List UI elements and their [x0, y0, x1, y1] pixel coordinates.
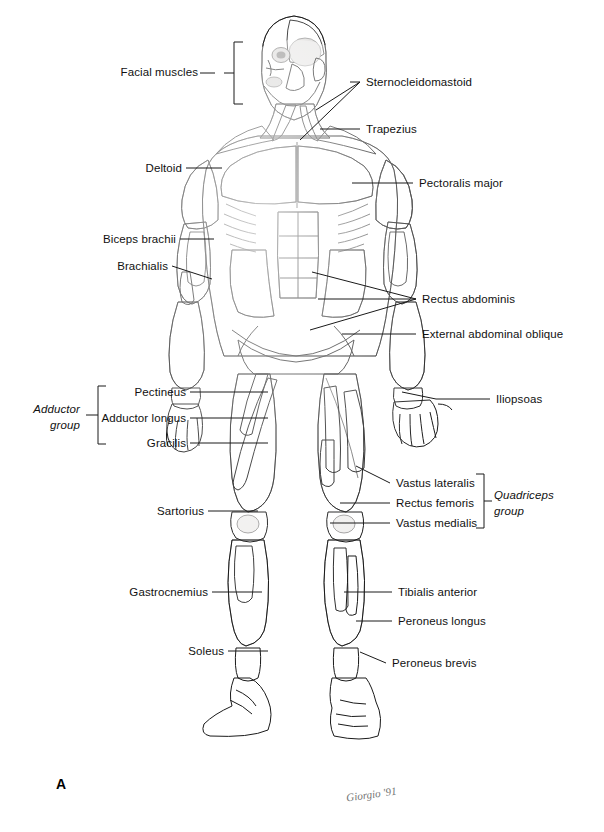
label-external-abdominal-oblique: External abdominal oblique — [422, 328, 563, 341]
label-sternocleidomastoid: Sternocleidomastoid — [366, 76, 472, 89]
adductor-group-line2: group — [50, 419, 80, 431]
quadriceps-group-line1: Quadriceps — [494, 489, 554, 501]
label-peroneus-brevis: Peroneus brevis — [392, 657, 477, 670]
adductor-group-line1: Adductor — [33, 403, 80, 415]
label-brachialis: Brachialis — [20, 260, 168, 273]
label-gracilis: Gracilis — [60, 437, 186, 450]
label-iliopsoas: Iliopsoas — [496, 393, 542, 406]
label-peroneus-longus: Peroneus longus — [398, 615, 486, 628]
label-biceps-brachii: Biceps brachii — [20, 233, 176, 246]
label-adductor-group: Adductor group — [8, 401, 80, 433]
label-deltoid: Deltoid — [40, 162, 182, 175]
quadriceps-group-line2: group — [494, 505, 524, 517]
label-quadriceps-group: Quadriceps group — [494, 487, 594, 519]
label-pectineus: Pectineus — [60, 386, 186, 399]
label-rectus-abdominis: Rectus abdominis — [422, 293, 515, 306]
label-soleus: Soleus — [110, 645, 224, 658]
label-vastus-lateralis: Vastus lateralis — [396, 477, 475, 490]
label-gastrocnemius: Gastrocnemius — [60, 586, 208, 599]
label-rectus-femoris: Rectus femoris — [396, 497, 474, 510]
label-vastus-medialis: Vastus medialis — [396, 517, 477, 530]
label-facial-muscles: Facial muscles — [43, 66, 198, 79]
label-pectoralis-major: Pectoralis major — [419, 177, 503, 190]
panel-letter: A — [56, 776, 66, 792]
label-trapezius: Trapezius — [366, 123, 417, 136]
label-tibialis-anterior: Tibialis anterior — [398, 586, 477, 599]
anatomy-figure-panel: Facial muscles Deltoid Biceps brachii Br… — [0, 0, 604, 832]
label-sartorius: Sartorius — [80, 505, 204, 518]
